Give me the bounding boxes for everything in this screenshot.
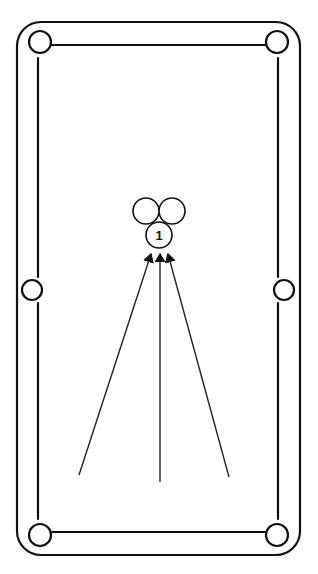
ball-rear-left <box>133 198 159 224</box>
table-cushion-rail <box>38 45 278 532</box>
pool-table-diagram: 1 <box>0 0 318 574</box>
pocket-middle-right <box>274 280 294 300</box>
arrow-left-shot <box>79 254 151 475</box>
pocket-bottom-right <box>266 524 288 546</box>
pocket-top-left <box>29 31 51 53</box>
pocket-middle-left <box>22 280 42 300</box>
ball-rear-right <box>159 198 185 224</box>
pocket-bottom-left <box>29 524 51 546</box>
table-outer-border <box>17 22 300 555</box>
pocket-top-right <box>266 31 288 53</box>
arrow-right-shot <box>168 254 229 477</box>
ball-head-label: 1 <box>155 228 162 243</box>
